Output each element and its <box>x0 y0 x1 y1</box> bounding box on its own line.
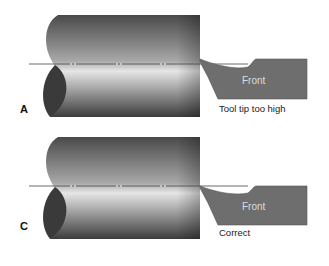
panel-c: Front C Correct <box>20 137 307 239</box>
tool-label: Front <box>242 75 266 86</box>
cutting-tool: Front <box>200 59 307 99</box>
cutting-tool: Front <box>200 186 307 225</box>
workpiece-cylinder <box>43 15 200 117</box>
panel-letter: C <box>20 220 28 232</box>
panel-caption: Tool tip too high <box>219 103 286 114</box>
workpiece-cylinder <box>43 137 200 239</box>
tool-label: Front <box>242 201 266 212</box>
panel-a: Front A Tool tip too high <box>20 15 307 117</box>
diagram-canvas: Front A Tool tip too high Front C Correc… <box>0 0 329 266</box>
panel-caption: Correct <box>219 227 251 238</box>
panel-letter: A <box>20 103 28 115</box>
